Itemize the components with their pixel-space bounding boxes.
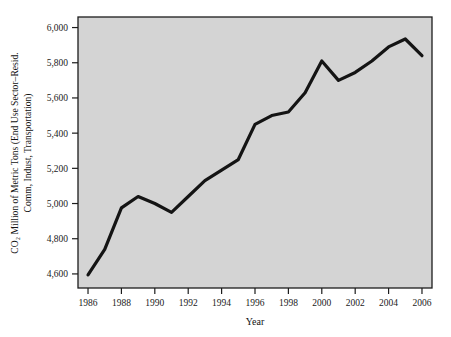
y-axis-title-line1: CO₂ Million of Metric Tons (End Use Sect… [9,52,21,253]
y-tick-label: 4,600 [47,269,69,279]
x-tick-label: 1986 [79,298,98,308]
x-tick-label: 2006 [412,298,431,308]
y-tick-label: 5,200 [47,164,69,174]
y-tick-label: 5,800 [47,58,69,68]
x-tick-label: 1990 [145,298,164,308]
y-tick-label: 5,000 [47,199,69,209]
chart-figure: 4,6004,8005,0005,2005,4005,6005,8006,000… [0,0,451,337]
x-tick-label: 2004 [379,298,398,308]
x-tick-label: 1998 [279,298,298,308]
y-tick-label: 5,400 [47,129,69,139]
x-tick-label: 1996 [246,298,265,308]
line-chart: 4,6004,8005,0005,2005,4005,6005,8006,000… [0,0,451,337]
x-tick-label: 2000 [312,298,331,308]
y-tick-label: 5,600 [47,93,69,103]
x-tick-label: 2002 [346,298,365,308]
x-tick-label: 1992 [179,298,198,308]
x-tick-label: 1988 [112,298,131,308]
x-tick-label: 1994 [212,298,231,308]
y-tick-label: 6,000 [47,23,69,33]
y-tick-label: 4,800 [47,234,69,244]
plot-area-background [78,17,432,288]
y-axis-title-line2: Comm, Indust, Transportation) [22,94,34,213]
x-axis-title: Year [246,316,265,327]
